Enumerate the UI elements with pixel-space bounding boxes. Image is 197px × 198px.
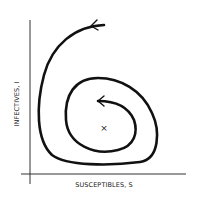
- x-axis-label: SUSCEPTIBLES, S: [75, 181, 133, 189]
- equilibrium-marker: ×: [100, 123, 108, 133]
- y-axis-label: INFECTIVES, I: [13, 81, 21, 126]
- phase-plane-diagram: × SUSCEPTIBLES, S INFECTIVES, I: [0, 0, 197, 198]
- spiral-trajectory: [39, 25, 157, 164]
